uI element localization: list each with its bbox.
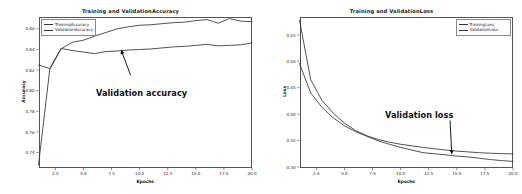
x-axis-tick-label: 20.0 — [243, 171, 261, 176]
loss-y-axis-label: Loss — [281, 62, 286, 122]
y-axis-tick-label: 0.86 — [17, 26, 35, 31]
y-axis-tick-label: 0.76 — [17, 130, 35, 135]
validation-loss-annotation: Validation loss — [385, 110, 453, 120]
loss-chart-panel: Training and ValidationLoss 0.300.350.40… — [261, 0, 522, 194]
validation-accuracy-annotation: Validation accuracy — [96, 88, 187, 98]
y-axis-tick-label: 0.78 — [17, 109, 35, 114]
legend-line-swatch — [44, 24, 53, 25]
loss-x-axis-label: Epochs — [300, 179, 514, 184]
x-axis-tick-label: 10.0 — [131, 171, 149, 176]
legend-line-swatch — [44, 30, 53, 31]
y-axis-tick-label: 0.50 — [278, 59, 296, 64]
legend-item-label: ValidationAccuracy — [55, 27, 93, 32]
x-axis-tick-label: 17.5 — [215, 171, 233, 176]
legend-line-swatch — [459, 24, 468, 25]
y-axis-tick-label: 0.40 — [278, 112, 296, 117]
series-line — [300, 20, 514, 154]
accuracy-x-axis-label: Epochs — [39, 179, 253, 184]
legend-line-swatch — [459, 30, 468, 31]
y-axis-tick-label: 0.45 — [278, 85, 296, 90]
accuracy-legend: TrainingAccuracy ValidationAccuracy — [41, 19, 96, 36]
x-axis-tick-label: 12.5 — [159, 171, 177, 176]
y-axis-tick-label: 0.30 — [278, 165, 296, 170]
y-axis-tick-label: 0.35 — [278, 138, 296, 143]
y-axis-tick-label: 0.55 — [278, 33, 296, 38]
series-line — [39, 43, 253, 69]
x-axis-tick-label: 15.0 — [187, 171, 205, 176]
annotation-arrow-head — [450, 150, 454, 154]
legend-item-validation-loss: ValidationLoss — [459, 27, 507, 32]
loss-legend: TrainingLoss ValidationLoss — [456, 19, 511, 36]
x-axis-tick-label: 7.5 — [364, 171, 382, 176]
annotation-arrow-line — [450, 120, 452, 154]
y-axis-tick-label: 0.80 — [17, 88, 35, 93]
x-axis-tick-label: 12.5 — [420, 171, 438, 176]
y-axis-tick-label: 0.82 — [17, 68, 35, 73]
x-axis-tick-label: 7.5 — [103, 171, 121, 176]
accuracy-y-axis-label: Accuracy — [20, 62, 25, 122]
x-axis-tick-label: 17.5 — [476, 171, 494, 176]
y-axis-tick-label: 0.74 — [17, 150, 35, 155]
accuracy-chart-panel: Training and ValidationAccuracy 0.740.76… — [0, 0, 261, 194]
x-axis-tick-label: 5.0 — [74, 171, 92, 176]
matplotlib-figure: Training and ValidationAccuracy 0.740.76… — [0, 0, 522, 194]
legend-item-validation-accuracy: ValidationAccuracy — [44, 27, 92, 32]
x-axis-tick-label: 10.0 — [392, 171, 410, 176]
x-axis-tick-label: 15.0 — [448, 171, 466, 176]
x-axis-tick-label: 2.5 — [307, 171, 325, 176]
x-axis-tick-label: 20.0 — [504, 171, 522, 176]
annotation-arrow-line — [121, 50, 131, 75]
y-axis-tick-label: 0.84 — [17, 47, 35, 52]
legend-item-label: ValidationLoss — [470, 27, 499, 32]
x-axis-tick-label: 5.0 — [335, 171, 353, 176]
x-axis-tick-label: 2.5 — [46, 171, 64, 176]
